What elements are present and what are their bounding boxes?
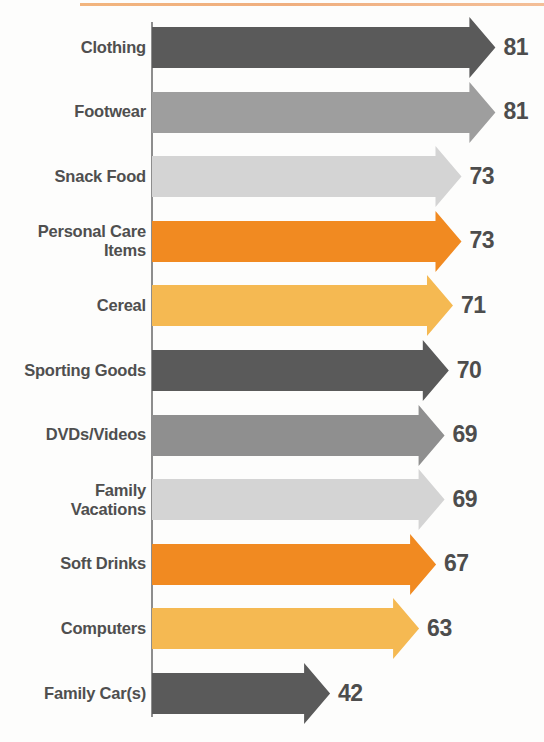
value-label: 69 [453,488,478,511]
category-label-line: Sporting Goods [0,361,146,380]
category-label: Cereal [0,296,146,315]
category-label-line: Cereal [0,296,146,315]
arrow-shape [152,340,449,401]
category-label-line: Family [0,481,146,500]
value-label: 70 [457,359,482,382]
category-label-line: Family Car(s) [0,684,146,703]
value-label: 81 [503,100,528,123]
value-label: 67 [444,552,469,575]
arrow-shape [152,17,495,78]
plot-area: Clothing81Footwear81Snack Food73Personal… [0,0,544,742]
value-label: 63 [427,617,452,640]
value-arrow [152,275,455,336]
value-arrow [152,405,447,466]
arrow-shape [152,275,453,336]
value-arrow [152,598,421,659]
category-label-line: Computers [0,619,146,638]
category-label-line: Footwear [0,102,146,121]
category-label: Sporting Goods [0,361,146,380]
value-arrow [152,663,332,724]
arrow-shape [152,211,461,272]
category-label: DVDs/Videos [0,425,146,444]
arrow-shape [152,598,419,659]
value-arrow [152,534,438,595]
arrow-shape [152,663,330,724]
category-label: Soft Drinks [0,554,146,573]
category-label-line: Personal Care [0,222,146,241]
value-label: 71 [461,294,486,317]
value-label: 73 [470,165,495,188]
value-label: 69 [453,423,478,446]
arrow-bar-chart: Clothing81Footwear81Snack Food73Personal… [0,0,544,742]
value-label: 73 [470,229,495,252]
category-label-line: Vacations [0,500,146,519]
value-arrow [152,469,447,530]
category-label-line: Items [0,241,146,260]
value-label: 42 [338,682,363,705]
category-label: Footwear [0,102,146,121]
category-label-line: DVDs/Videos [0,425,146,444]
value-arrow [152,146,464,207]
value-arrow [152,82,497,143]
category-label: Personal CareItems [0,222,146,260]
category-label-line: Clothing [0,38,146,57]
value-arrow [152,340,451,401]
value-arrow [152,211,464,272]
category-label: Family Car(s) [0,684,146,703]
category-label-line: Soft Drinks [0,554,146,573]
arrow-shape [152,82,495,143]
category-label: Snack Food [0,167,146,186]
arrow-shape [152,146,461,207]
category-label: Clothing [0,38,146,57]
value-label: 81 [503,36,528,59]
category-label: Computers [0,619,146,638]
arrow-shape [152,534,436,595]
category-label-line: Snack Food [0,167,146,186]
value-arrow [152,17,497,78]
category-label: FamilyVacations [0,481,146,519]
arrow-shape [152,469,445,530]
arrow-shape [152,405,445,466]
